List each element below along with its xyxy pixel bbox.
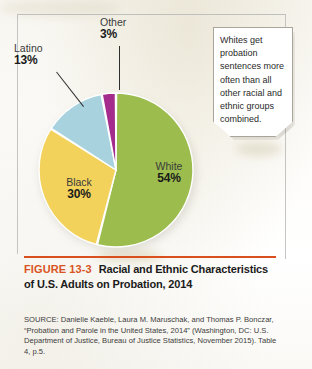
slice-label-black: Black 30% (52, 176, 106, 202)
slice-value-other: 3% (100, 28, 146, 42)
caption-title-line: FIGURE 13-3Racial and Ethnic Characteris… (24, 262, 276, 291)
slice-value-latino: 13% (14, 54, 66, 68)
figure-page: White 54% Black 30% Latino 13% Other 3% … (0, 0, 312, 369)
callout-banner: Whites get probation sentences more ofte… (213, 27, 295, 139)
slice-label-other: Other 3% (100, 16, 146, 42)
slice-value-white: 54% (140, 172, 198, 186)
callout-text: Whites get probation sentences more ofte… (220, 34, 288, 126)
leader-line-other (119, 46, 120, 90)
figure-source-note: SOURCE: Danielle Kaeble, Laura M. Marusc… (24, 315, 282, 357)
slice-value-black: 30% (52, 188, 106, 202)
figure-caption: FIGURE 13-3Racial and Ethnic Characteris… (24, 262, 276, 291)
figure-number: FIGURE 13-3 (24, 263, 92, 275)
caption-divider (24, 256, 276, 258)
slice-label-white: White 54% (140, 160, 198, 186)
figure-border-top (17, 14, 285, 15)
scan-smudge (236, 142, 282, 156)
slice-label-latino: Latino 13% (14, 42, 66, 68)
